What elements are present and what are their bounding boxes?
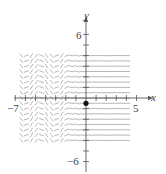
slope-segment [74,103,79,104]
slope-segment [45,128,48,132]
slope-segment [20,54,23,58]
slope-segment [35,128,38,132]
slope-segment [54,134,59,136]
slope-segment [20,91,23,95]
slope-segment [39,60,44,62]
slope-segment [20,133,23,137]
slope-segment [50,85,53,89]
slope-segment [54,65,59,67]
slope-segment [35,54,38,58]
slope-segment [45,53,48,57]
slope-segment [30,128,33,132]
slope-segment [50,75,53,79]
x-axis-label: x [151,92,156,103]
slope-segment [64,108,69,110]
slope-segment [20,64,23,68]
slope-segment [64,76,69,78]
slope-segment [50,64,53,68]
slope-segment [24,124,29,126]
slope-segment [30,133,33,137]
slope-segment [64,55,69,57]
slope-segment [64,123,69,125]
slope-segment [60,117,63,121]
slope-segment [45,101,48,105]
slope-segment [64,139,69,141]
slope-segment [20,107,23,111]
slope-segment [35,69,38,73]
slope-segment [54,118,59,120]
slope-segment [54,92,59,94]
slope-segment [64,134,69,136]
slope-segment [35,138,38,142]
slope-segment [50,122,53,126]
slope-segment [74,66,79,67]
slope-segment [35,64,38,68]
slope-segment [30,85,33,89]
slope-segment [54,140,59,142]
slope-segment [64,118,69,120]
slope-segment [74,129,79,130]
slope-segment [30,64,33,68]
slope-segment [30,112,33,116]
slope-segment [60,64,63,68]
slope-segment [50,128,53,132]
slope-segment [39,124,44,126]
slope-segment [35,107,38,111]
slope-segment [74,124,79,125]
slope-segment [20,75,23,79]
y-tick-label-max: 6 [76,30,82,41]
slope-segment [45,138,48,142]
slope-segment [74,55,79,56]
slope-segment [45,133,48,137]
slope-segment [24,87,29,89]
slope-segment [30,90,33,94]
slope-segment [39,65,44,67]
slope-segment [24,65,29,67]
slope-segment [39,108,44,110]
slope-segment [74,119,79,120]
x-tick-label-min: −7 [7,103,19,114]
slope-segment [39,92,44,94]
slope-segment [60,106,63,110]
slope-segment [35,122,38,126]
slope-segment [24,55,29,57]
slope-segment [60,69,63,73]
slope-segment [20,138,23,142]
slope-segment [60,90,63,94]
slope-segment [54,55,59,57]
slope-segment [60,59,63,63]
slope-segment [30,75,33,79]
slope-segment [39,134,44,136]
y-axis-label: y [84,10,89,21]
slope-segment [24,140,29,142]
slope-segment [24,113,29,115]
slope-segment [60,85,63,89]
slope-segment [74,140,79,141]
slope-segment [30,80,33,84]
slope-segment [60,80,63,84]
slope-segment [60,138,63,142]
slope-segment [39,55,44,57]
slope-segment [60,75,63,79]
slope-segment [74,113,79,114]
slope-segment [45,69,48,73]
slope-segment [35,80,38,84]
slope-segment [54,87,59,89]
slope-segment [39,76,44,78]
slope-segment [64,70,69,72]
slope-segment [45,75,48,79]
slope-segment [74,92,79,93]
slope-segment [74,108,79,109]
slope-segment [50,69,53,73]
slope-segment [20,69,23,73]
slope-field-diagram [0,0,166,174]
slope-segment [60,101,63,105]
slope-segment [54,124,59,126]
axes [14,16,153,172]
slope-segment [35,85,38,89]
slope-segment [24,102,29,104]
slope-segment [50,117,53,121]
slope-segment [60,53,63,57]
slope-segment [30,122,33,126]
slope-segment [60,122,63,126]
